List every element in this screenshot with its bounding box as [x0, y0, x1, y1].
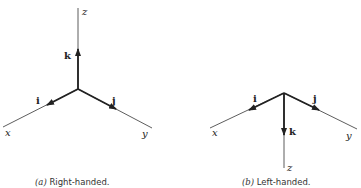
- j-vector: [78, 89, 116, 109]
- j-vector-label: j: [312, 93, 317, 104]
- x-axis-label: x: [5, 127, 11, 138]
- coordinate-systems-figure: z x y k i j (a) Right-handed. z x y k i …: [0, 0, 361, 188]
- k-vector-label: k: [64, 50, 72, 61]
- i-vector-label: i: [253, 93, 257, 104]
- left-handed-diagram: z x y k i j (b) Left-handed.: [210, 93, 357, 187]
- j-vector-label: j: [111, 95, 116, 106]
- y-axis-label: y: [345, 130, 352, 141]
- k-vector-label: k: [289, 126, 297, 137]
- right-handed-diagram: z x y k i j (a) Right-handed.: [3, 6, 152, 187]
- z-axis-label: z: [286, 162, 293, 173]
- z-axis-label: z: [81, 6, 88, 17]
- i-vector-label: i: [36, 95, 40, 106]
- i-vector: [47, 89, 78, 105]
- x-axis-label: x: [212, 127, 218, 138]
- caption-left-handed: (b) Left-handed.: [242, 177, 311, 187]
- y-axis-label: y: [141, 128, 148, 139]
- caption-right-handed: (a) Right-handed.: [35, 177, 110, 187]
